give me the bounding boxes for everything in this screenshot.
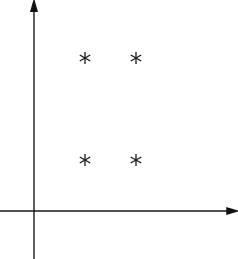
x-axis-arrowhead bbox=[226, 207, 238, 215]
y-axis-arrowhead bbox=[30, 0, 38, 12]
data-points bbox=[80, 52, 141, 166]
data-point-asterisk bbox=[80, 52, 90, 64]
data-point-asterisk bbox=[131, 52, 141, 64]
scatter-chart bbox=[0, 0, 238, 259]
data-point-asterisk bbox=[131, 154, 141, 166]
data-point-asterisk bbox=[80, 154, 90, 166]
axes bbox=[0, 0, 238, 259]
